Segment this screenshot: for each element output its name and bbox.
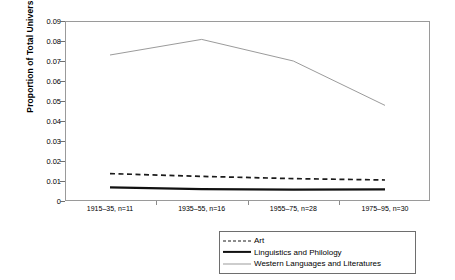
series-line [110,174,385,180]
series-line [110,187,385,189]
y-tick-label: 0.01 [0,177,65,186]
x-tick-mark [248,201,249,205]
y-tick-label: 0.04 [0,117,65,126]
y-tick-label: 0.02 [0,157,65,166]
y-tick-label: 0.08 [0,37,65,46]
plot-area [65,21,430,201]
y-tick-label: 0.05 [0,97,65,106]
chart-figure: Proportion of Total University Faculty 0… [0,0,455,280]
legend-item-western-languages-and-literatures[interactable]: Western Languages and Literatures [223,258,411,270]
thin-line-key [223,259,251,269]
thick-line-key [223,247,251,257]
x-tick-label: 1935–55, n=16 [178,205,225,212]
chart-legend: Art Linguistics and Philology Western La… [219,231,416,274]
y-tick-label: 0.03 [0,137,65,146]
y-tick-mark [60,201,65,202]
series-line [110,39,385,105]
y-tick-label: 0.09 [0,17,65,26]
legend-item-linguistics-and-philology[interactable]: Linguistics and Philology [223,247,411,259]
legend-label: Art [254,235,264,246]
x-tick-mark [156,201,157,205]
x-tick-mark [339,201,340,205]
x-tick-label: 1955–75, n=28 [270,205,317,212]
series-lines [66,22,429,200]
x-tick-label: 1915–35, n=11 [87,205,133,212]
legend-label: Western Languages and Literatures [254,258,381,269]
y-tick-label: 0 [0,197,65,206]
y-tick-label: 0.07 [0,57,65,66]
dashed-line-key [223,236,251,246]
x-tick-label: 1975–95, n=30 [362,205,409,212]
legend-item-art[interactable]: Art [223,235,411,247]
legend-label: Linguistics and Philology [254,247,342,258]
y-tick-label: 0.06 [0,77,65,86]
